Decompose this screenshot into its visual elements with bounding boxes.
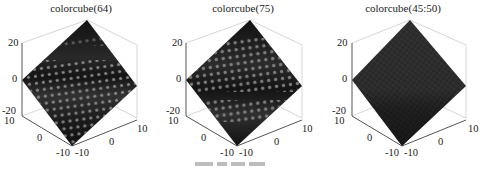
y-tick: -10: [220, 148, 234, 158]
x-tick: -10: [239, 148, 253, 158]
x-tick: 0: [438, 137, 443, 147]
x-tick: 0: [274, 137, 279, 147]
y-tick: -10: [56, 148, 70, 158]
surface-plot: [162, 0, 324, 150]
x-tick: 10: [137, 124, 148, 134]
subplot-colorcube-75: colorcube(75): [162, 0, 324, 150]
z-tick: 20: [8, 38, 19, 48]
y-tick: 10: [168, 116, 179, 126]
z-tick: 20: [337, 38, 348, 48]
x-tick: 10: [468, 124, 479, 134]
y-tick: 10: [334, 116, 345, 126]
z-tick: 0: [342, 74, 347, 84]
y-tick: -10: [385, 148, 399, 158]
y-tick: 0: [37, 133, 42, 143]
x-tick: -10: [404, 148, 418, 158]
y-tick: 0: [367, 133, 372, 143]
subplot-colorcube-64: colorcube(64): [0, 0, 162, 150]
z-tick: 0: [12, 74, 17, 84]
x-tick: 10: [302, 124, 313, 134]
x-tick: 0: [109, 137, 114, 147]
z-tick: 20: [172, 38, 183, 48]
x-tick: -10: [75, 148, 89, 158]
y-tick: 0: [201, 133, 206, 143]
z-tick: 0: [176, 74, 181, 84]
subplot-colorcube-45-50: colorcube(45:50): [322, 0, 484, 150]
figure-caption-truncated: [195, 162, 295, 168]
y-tick: 10: [4, 116, 15, 126]
